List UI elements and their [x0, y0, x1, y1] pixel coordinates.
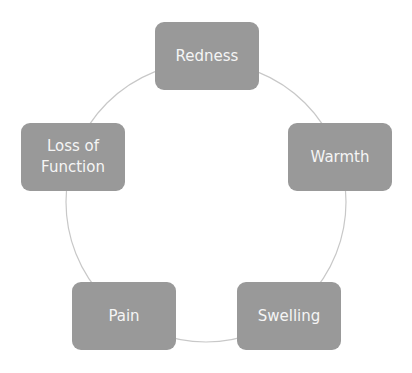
- node-label: Swelling: [258, 306, 321, 327]
- node-swelling: Swelling: [237, 282, 341, 350]
- node-label: Pain: [108, 306, 139, 327]
- node-pain: Pain: [72, 282, 176, 350]
- node-loss-of-function: Loss of Function: [21, 123, 125, 191]
- node-redness: Redness: [155, 22, 259, 90]
- node-warmth: Warmth: [288, 123, 392, 191]
- node-label: Loss of Function: [41, 136, 105, 178]
- cycle-diagram: Redness Warmth Swelling Pain Loss of Fun…: [0, 0, 412, 373]
- node-label: Warmth: [311, 147, 370, 168]
- node-label: Redness: [176, 46, 239, 67]
